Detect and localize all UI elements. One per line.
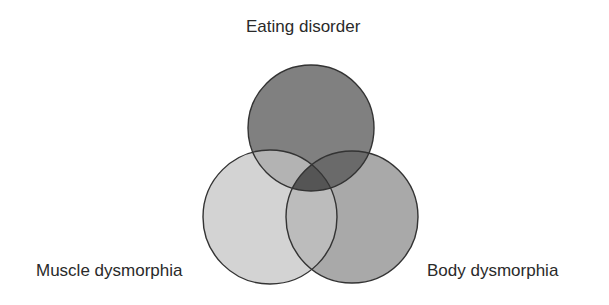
- muscle-dysmorphia-label: Muscle dysmorphia: [36, 262, 182, 279]
- venn-diagram: [0, 0, 609, 305]
- body-dysmorphia-label: Body dysmorphia: [427, 262, 558, 279]
- eating-disorder-label: Eating disorder: [246, 18, 360, 35]
